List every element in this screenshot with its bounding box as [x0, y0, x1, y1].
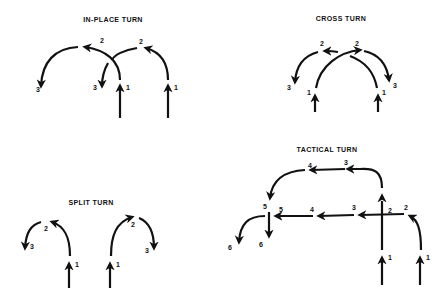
arrow-icon [410, 216, 421, 250]
point-label-3: 3 [393, 82, 397, 89]
arrow-icon [325, 51, 338, 52]
arrow-icon [270, 170, 305, 198]
point-label-5: 5 [279, 206, 283, 213]
cross-right-track [295, 51, 378, 112]
point-label-5: 5 [263, 203, 267, 210]
point-label-1: 1 [426, 254, 430, 261]
split-turn-title: SPLIT TURN [68, 199, 113, 206]
point-label-2: 2 [404, 204, 408, 211]
point-label-3: 3 [30, 243, 34, 250]
split-turn-panel: SPLIT TURN 2 3 1 2 3 1 [25, 199, 154, 288]
arrow-icon [364, 51, 389, 80]
arrow-icon [348, 169, 382, 188]
tactical-turn-title: TACTICAL TURN [297, 146, 358, 153]
point-label-1: 1 [307, 89, 311, 96]
arc-segment [112, 48, 137, 60]
point-label-2: 2 [139, 38, 143, 45]
point-label-2: 2 [131, 221, 135, 228]
point-label-4: 4 [310, 206, 314, 213]
point-label-3: 3 [352, 204, 356, 211]
point-label-2: 2 [44, 225, 48, 232]
point-label-1: 1 [116, 261, 120, 268]
arrow-icon [319, 215, 354, 216]
point-label-6: 6 [228, 244, 232, 251]
point-label-2: 2 [355, 40, 359, 47]
turn-maneuvers-diagram: IN-PLACE TURN 2 3 1 2 3 1 CROSS TURN 1 [0, 0, 441, 299]
arrow-icon [139, 218, 154, 248]
tactical-turn-panel: TACTICAL TURN 4 3 5 2 6 1 5 4 3 2 [228, 146, 430, 285]
arrow-icon [146, 48, 168, 80]
tactical-right-track [239, 214, 421, 285]
point-label-3: 3 [287, 84, 291, 91]
point-label-1: 1 [388, 254, 392, 261]
arc-segment [350, 56, 377, 88]
arrow-icon [102, 63, 108, 86]
in-place-left-track [41, 47, 120, 118]
point-label-1: 1 [382, 89, 386, 96]
cross-turn-panel: CROSS TURN 1 2 3 2 3 1 [287, 15, 397, 112]
arrow-icon [52, 222, 70, 256]
point-label-1: 1 [126, 84, 130, 91]
arrow-icon [111, 217, 132, 256]
point-label-3: 3 [93, 84, 97, 91]
tactical-left-track [269, 169, 382, 285]
point-label-2: 2 [100, 37, 104, 44]
point-label-4: 4 [308, 162, 312, 169]
point-label-3: 3 [344, 159, 348, 166]
point-label-1: 1 [75, 261, 79, 268]
in-place-turn-panel: IN-PLACE TURN 2 3 1 2 3 1 [36, 16, 178, 118]
arrow-icon [311, 169, 345, 170]
point-label-3: 3 [145, 247, 149, 254]
point-label-2: 2 [388, 207, 392, 214]
arrow-icon [316, 50, 360, 88]
in-place-right-track [102, 48, 168, 118]
arrow-icon [360, 214, 404, 215]
cross-turn-title: CROSS TURN [316, 15, 366, 22]
point-label-6: 6 [259, 241, 263, 248]
arrow-icon [239, 216, 265, 242]
in-place-turn-title: IN-PLACE TURN [83, 16, 143, 23]
arrow-icon [295, 52, 318, 82]
point-label-1: 1 [174, 84, 178, 91]
point-label-2: 2 [320, 40, 324, 47]
arrow-icon [41, 47, 78, 86]
point-label-3: 3 [36, 86, 40, 93]
